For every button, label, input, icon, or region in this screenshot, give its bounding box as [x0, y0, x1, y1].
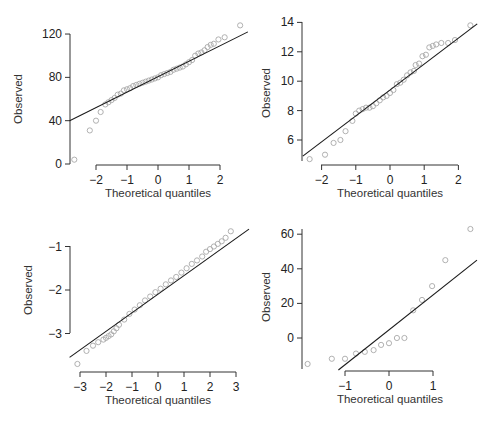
data-point	[343, 129, 348, 134]
data-point	[402, 335, 407, 340]
data-point	[331, 140, 336, 145]
data-point	[342, 356, 347, 361]
x-axis-title: Theoretical quantiles	[105, 394, 211, 406]
data-point	[329, 356, 334, 361]
data-point	[90, 343, 95, 348]
x-tick-label: 0	[155, 380, 162, 394]
x-tick-label: 1	[181, 380, 188, 394]
data-points	[307, 23, 473, 162]
reference-line	[70, 32, 248, 121]
data-point	[184, 266, 189, 271]
x-tick-label: 3	[233, 380, 240, 394]
data-points	[72, 23, 243, 162]
y-tick-label: 0	[287, 331, 294, 345]
x-tick-label: −1	[349, 173, 363, 187]
qq-panel-bottom-left: −3−2−1−3−2−10123Theoretical quantilesObs…	[22, 229, 249, 406]
y-tick-label: 6	[287, 133, 294, 147]
x-axis-title: Theoretical quantiles	[337, 187, 443, 199]
reference-line	[70, 229, 249, 357]
x-tick-label: 2	[207, 380, 214, 394]
y-axis-title: Observed	[12, 74, 24, 124]
data-point	[200, 254, 205, 259]
qq-panel-top-left: 04080120−2−1012Theoretical quantilesObse…	[12, 23, 248, 199]
data-point	[222, 35, 227, 40]
data-point	[443, 258, 448, 263]
data-point	[371, 348, 376, 353]
y-tick-label: 20	[281, 296, 295, 310]
data-point	[189, 261, 194, 266]
data-point	[179, 270, 184, 275]
y-tick-label: 12	[281, 45, 295, 59]
y-axis-title: Observed	[260, 68, 272, 118]
x-tick-label: −2	[89, 173, 103, 187]
reference-line	[303, 24, 477, 156]
x-tick-label: 0	[387, 173, 394, 187]
qq-panel-top-right: 68101214−2−1012Theoretical quantilesObse…	[260, 15, 477, 199]
y-tick-label: 10	[281, 74, 295, 88]
qq-plot-figure: 04080120−2−1012Theoretical quantilesObse…	[0, 0, 501, 430]
data-point	[439, 40, 444, 45]
data-point	[228, 229, 233, 234]
data-point	[98, 109, 103, 114]
x-tick-label: −2	[315, 173, 329, 187]
x-tick-label: 0	[155, 173, 162, 187]
y-tick-label: 120	[42, 27, 62, 41]
x-tick-label: −3	[73, 380, 87, 394]
data-point	[96, 340, 101, 345]
data-point	[168, 278, 173, 283]
reference-line	[338, 260, 477, 370]
x-axis-title: Theoretical quantiles	[105, 187, 211, 199]
data-point	[174, 274, 179, 279]
data-point	[93, 118, 98, 123]
data-point	[75, 361, 80, 366]
data-point	[307, 157, 312, 162]
data-point	[238, 23, 243, 28]
y-tick-label: −1	[48, 240, 62, 254]
data-points	[305, 226, 473, 366]
x-tick-label: 2	[455, 173, 462, 187]
x-tick-label: 2	[217, 173, 224, 187]
data-point	[468, 226, 473, 231]
y-tick-label: 40	[49, 114, 63, 128]
data-point	[322, 152, 327, 157]
data-point	[153, 290, 158, 295]
x-tick-label: −1	[338, 379, 352, 393]
y-tick-label: −3	[48, 327, 62, 341]
y-axis-title: Observed	[260, 272, 272, 322]
data-point	[84, 348, 89, 353]
y-tick-label: 80	[49, 70, 63, 84]
x-tick-label: 0	[386, 379, 393, 393]
y-tick-label: −2	[48, 283, 62, 297]
data-point	[194, 258, 199, 263]
data-point	[87, 128, 92, 133]
data-point	[223, 235, 228, 240]
y-tick-label: 40	[281, 262, 295, 276]
y-tick-label: 0	[55, 157, 62, 171]
x-tick-label: 1	[186, 173, 193, 187]
x-tick-label: −1	[125, 380, 139, 394]
data-point	[163, 282, 168, 287]
data-point	[394, 335, 399, 340]
data-point	[430, 284, 435, 289]
data-point	[72, 157, 77, 162]
qq-panel-bottom-right: 0204060−101Theoretical quantilesObserved	[260, 226, 477, 405]
data-point	[305, 361, 310, 366]
x-tick-label: −2	[99, 380, 113, 394]
data-point	[378, 342, 383, 347]
data-point	[386, 341, 391, 346]
data-point	[216, 37, 221, 42]
data-point	[211, 41, 216, 46]
x-axis-title: Theoretical quantiles	[337, 393, 443, 405]
y-tick-label: 8	[287, 104, 294, 118]
data-point	[338, 137, 343, 142]
y-tick-label: 60	[281, 227, 295, 241]
x-tick-label: 1	[430, 379, 437, 393]
y-tick-label: 14	[281, 15, 295, 29]
x-tick-label: 1	[421, 173, 428, 187]
x-tick-label: −1	[120, 173, 134, 187]
y-axis-title: Observed	[22, 265, 34, 315]
